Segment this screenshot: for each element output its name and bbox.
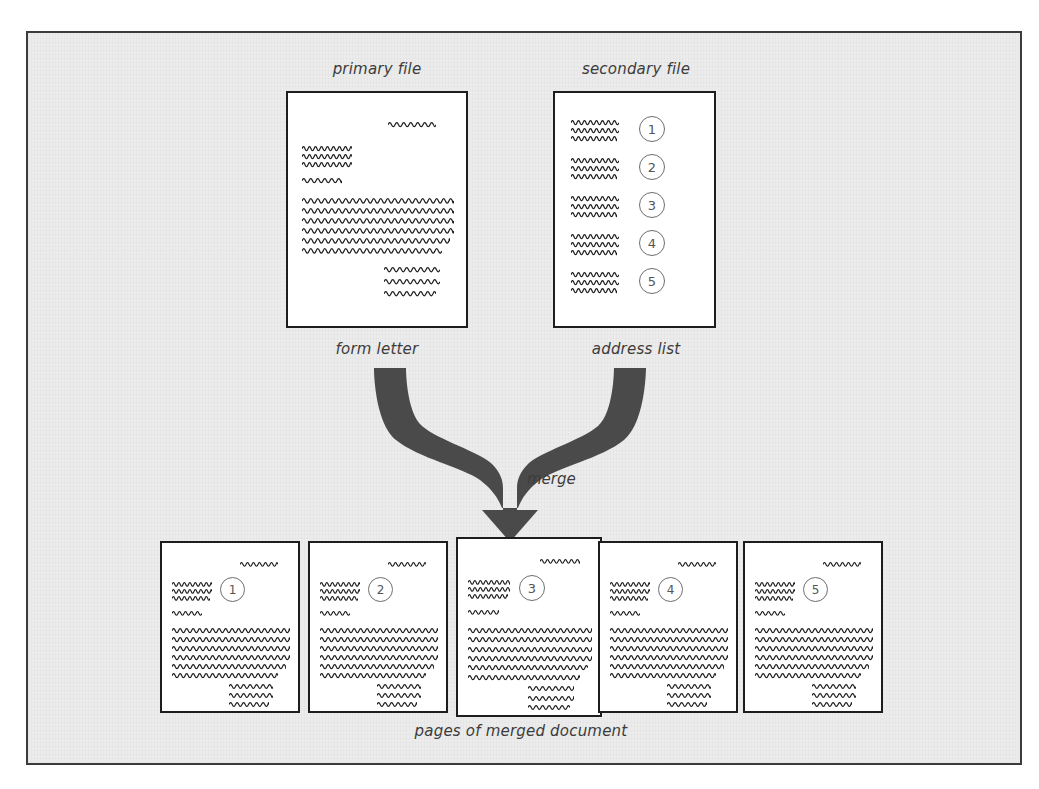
merged-page-5-content: 5: [745, 543, 881, 711]
squiggle-text-line-icon: [384, 278, 440, 286]
squiggle-text-line-icon: [528, 685, 574, 692]
primary-file-content: [288, 93, 466, 326]
squiggle-text-line-icon: [755, 645, 873, 652]
squiggle-text-line-icon: [320, 581, 360, 588]
y-merge-arrow-icon: [360, 360, 660, 545]
merged-page-1: 1: [160, 541, 300, 713]
squiggle-text-line-icon: [320, 595, 358, 602]
squiggle-text-line-icon: [172, 672, 278, 679]
squiggle-text-line-icon: [302, 217, 454, 225]
circled-number-icon: 2: [368, 577, 393, 602]
squiggle-text-line-icon: [571, 249, 617, 256]
squiggle-text-line-icon: [571, 241, 619, 248]
squiggle-text-line-icon: [302, 197, 454, 205]
squiggle-text-line-icon: [823, 561, 861, 568]
squiggle-text-line-icon: [755, 595, 793, 602]
squiggle-text-line-icon: [229, 683, 273, 690]
circled-number-icon: 1: [220, 577, 245, 602]
secondary-file-sheet: 12345: [553, 91, 716, 328]
squiggle-text-line-icon: [302, 237, 450, 245]
primary-file-sheet: [286, 91, 468, 328]
merged-page-3-content: 3: [458, 539, 600, 715]
squiggle-text-line-icon: [172, 588, 212, 595]
squiggle-text-line-icon: [755, 663, 869, 670]
label-address-list: address list: [592, 340, 680, 358]
squiggle-text-line-icon: [302, 227, 454, 235]
squiggle-text-line-icon: [571, 195, 619, 202]
label-primary-file: primary file: [333, 60, 422, 78]
squiggle-text-line-icon: [172, 654, 290, 661]
squiggle-text-line-icon: [384, 266, 440, 274]
squiggle-text-line-icon: [468, 579, 510, 586]
squiggle-text-line-icon: [571, 119, 619, 126]
squiggle-text-line-icon: [172, 581, 212, 588]
squiggle-text-line-icon: [468, 646, 592, 653]
squiggle-text-line-icon: [610, 672, 716, 679]
squiggle-text-line-icon: [320, 588, 360, 595]
squiggle-text-line-icon: [571, 173, 617, 180]
label-form-letter: form letter: [336, 340, 419, 358]
squiggle-text-line-icon: [528, 704, 570, 711]
circled-number-icon: 5: [639, 268, 665, 294]
squiggle-text-line-icon: [320, 654, 438, 661]
squiggle-text-line-icon: [320, 645, 438, 652]
squiggle-text-line-icon: [468, 609, 499, 616]
squiggle-text-line-icon: [571, 233, 619, 240]
squiggle-text-line-icon: [667, 683, 711, 690]
circled-number-icon: 4: [639, 230, 665, 256]
squiggle-text-line-icon: [610, 627, 728, 634]
merged-page-3: 3: [456, 537, 602, 717]
squiggle-text-line-icon: [388, 121, 436, 128]
squiggle-text-line-icon: [388, 561, 426, 568]
squiggle-text-line-icon: [610, 663, 724, 670]
squiggle-text-line-icon: [610, 581, 650, 588]
squiggle-text-line-icon: [377, 701, 417, 708]
figure-canvas: primary file secondary file 12345 form l…: [0, 0, 1039, 789]
squiggle-text-line-icon: [468, 664, 588, 671]
merged-page-2-content: 2: [310, 543, 446, 711]
squiggle-text-line-icon: [755, 581, 795, 588]
squiggle-text-line-icon: [468, 586, 510, 593]
label-merged-pages: pages of merged document: [415, 722, 628, 740]
squiggle-text-line-icon: [571, 203, 619, 210]
squiggle-text-line-icon: [320, 636, 438, 643]
squiggle-text-line-icon: [571, 157, 619, 164]
squiggle-text-line-icon: [320, 672, 426, 679]
merged-page-4-content: 4: [600, 543, 736, 711]
squiggle-text-line-icon: [755, 627, 873, 634]
squiggle-text-line-icon: [610, 654, 728, 661]
squiggle-text-line-icon: [377, 692, 421, 699]
circled-number-icon: 3: [519, 575, 545, 601]
squiggle-text-line-icon: [468, 655, 592, 662]
squiggle-text-line-icon: [755, 654, 873, 661]
merged-page-5: 5: [743, 541, 883, 713]
squiggle-text-line-icon: [571, 287, 617, 294]
merged-page-4: 4: [598, 541, 738, 713]
label-secondary-file: secondary file: [582, 60, 690, 78]
squiggle-text-line-icon: [302, 177, 342, 184]
merged-page-1-content: 1: [162, 543, 298, 711]
squiggle-text-line-icon: [667, 701, 707, 708]
circled-number-icon: 4: [658, 577, 683, 602]
circled-number-icon: 2: [639, 154, 665, 180]
squiggle-text-line-icon: [610, 588, 650, 595]
circled-number-icon: 5: [803, 577, 828, 602]
squiggle-text-line-icon: [468, 593, 508, 600]
squiggle-text-line-icon: [240, 561, 278, 568]
squiggle-text-line-icon: [468, 636, 592, 643]
circled-number-icon: 1: [639, 116, 665, 142]
squiggle-text-line-icon: [302, 153, 352, 160]
squiggle-text-line-icon: [468, 627, 592, 634]
squiggle-text-line-icon: [571, 271, 619, 278]
squiggle-text-line-icon: [610, 645, 728, 652]
squiggle-text-line-icon: [667, 692, 711, 699]
squiggle-text-line-icon: [172, 645, 290, 652]
squiggle-text-line-icon: [172, 627, 290, 634]
squiggle-text-line-icon: [384, 290, 436, 298]
squiggle-text-line-icon: [302, 207, 454, 215]
squiggle-text-line-icon: [302, 247, 442, 255]
squiggle-text-line-icon: [320, 610, 350, 617]
squiggle-text-line-icon: [571, 279, 619, 286]
squiggle-text-line-icon: [571, 135, 617, 142]
squiggle-text-line-icon: [172, 636, 290, 643]
